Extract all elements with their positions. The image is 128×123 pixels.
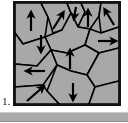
grain-structure-panel [13, 1, 121, 106]
bottom-scroll-bar[interactable] [0, 112, 128, 122]
grain-structure-svg [15, 3, 119, 104]
figure-number-label: 1. [2, 95, 10, 107]
figure-root: 1. [0, 0, 128, 123]
